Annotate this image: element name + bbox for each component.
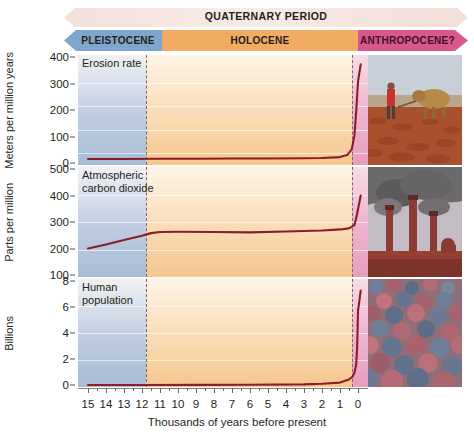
y-tick-mark xyxy=(70,169,75,170)
x-tick-label: 11 xyxy=(154,398,166,410)
x-tick-label: 0 xyxy=(355,398,361,410)
x-tick-mark-minor xyxy=(223,388,224,391)
x-axis-tick-labels: 1514131211109876543210 xyxy=(78,398,368,414)
epoch-band: PLEISTOCENE HOLOCENE ANTHROPOCENE? xyxy=(64,30,468,51)
chart-stack: Meters per million years 4003002001000 E… xyxy=(0,55,474,390)
y-tick-mark xyxy=(70,222,75,223)
x-tick-label: 3 xyxy=(301,398,307,410)
x-tick-mark-minor xyxy=(169,388,170,391)
y-tick-label: 0 xyxy=(63,379,69,391)
plowing-field-photo xyxy=(368,55,462,165)
y-tick-mark xyxy=(70,248,75,249)
x-tick-label: 10 xyxy=(172,398,185,410)
panel-atmospheric-co2-title: Atmospheric carbon dioxide xyxy=(82,169,154,194)
x-tick-mark xyxy=(286,388,287,393)
panel-human-population-axis-title: Billions xyxy=(0,279,17,387)
panel-atmospheric-co2-axis-title: Parts per million xyxy=(0,167,17,277)
epoch-anthropocene: ANTHROPOCENE? xyxy=(358,30,468,51)
y-tick-mark xyxy=(70,110,75,111)
panel-erosion-rate: Meters per million years 4003002001000 E… xyxy=(0,55,474,165)
y-tick-label: 6 xyxy=(63,301,69,313)
y-tick-mark xyxy=(70,307,75,308)
epoch-pleistocene-label: PLEISTOCENE xyxy=(81,35,155,46)
y-tick-label: 500 xyxy=(50,163,69,175)
y-tick-label: 200 xyxy=(50,243,69,255)
y-tick-label: 300 xyxy=(50,216,69,228)
x-tick-label: 14 xyxy=(100,398,113,410)
y-tick-mark xyxy=(70,136,75,137)
x-tick-label: 13 xyxy=(118,398,131,410)
y-tick-mark xyxy=(70,57,75,58)
panel-atmospheric-co2-yticks: 500400300200100 xyxy=(17,167,75,277)
x-tick-mark xyxy=(232,388,233,393)
y-tick-label: 400 xyxy=(50,190,69,202)
y-tick-mark xyxy=(70,385,75,386)
x-tick-mark xyxy=(160,388,161,393)
x-tick-mark xyxy=(358,388,359,393)
y-tick-mark xyxy=(70,359,75,360)
x-tick-label: 4 xyxy=(283,398,289,410)
panel-human-population-title: Human population xyxy=(82,281,133,306)
x-tick-mark-minor xyxy=(259,388,260,391)
x-tick-mark-minor xyxy=(133,388,134,391)
panel-human-population-yticks: 86420 xyxy=(17,279,75,387)
x-axis-title: Thousands of years before present xyxy=(0,416,474,428)
x-tick-label: 5 xyxy=(265,398,271,410)
panel-erosion-rate-axis-title: Meters per million years xyxy=(0,55,17,165)
x-tick-label: 9 xyxy=(193,398,199,410)
x-tick-mark xyxy=(214,388,215,393)
y-tick-mark xyxy=(70,275,75,276)
panel-human-population: Billions 86420 Human population xyxy=(0,279,474,387)
smokestacks-photo xyxy=(368,167,462,277)
x-tick-mark-minor xyxy=(115,388,116,391)
y-tick-label: 400 xyxy=(50,51,69,63)
panel-atmospheric-co2-plot: Atmospheric carbon dioxide xyxy=(78,167,368,277)
y-tick-label: 200 xyxy=(50,104,69,116)
y-tick-mark xyxy=(70,333,75,334)
y-tick-mark xyxy=(70,83,75,84)
x-tick-mark xyxy=(106,388,107,393)
panel-atmospheric-co2: Parts per million 500400300200100 Atmosp… xyxy=(0,167,474,277)
x-tick-mark-minor xyxy=(349,388,350,391)
data-line xyxy=(88,196,361,249)
x-tick-mark xyxy=(88,388,89,393)
x-tick-mark-minor xyxy=(313,388,314,391)
epoch-pleistocene: PLEISTOCENE xyxy=(64,30,162,51)
crowd-photo xyxy=(368,279,462,387)
erosion-rate-curve xyxy=(78,55,368,165)
x-tick-label: 7 xyxy=(229,398,235,410)
x-tick-mark xyxy=(142,388,143,393)
y-tick-mark xyxy=(70,281,75,282)
x-tick-mark xyxy=(322,388,323,393)
x-tick-mark-minor xyxy=(331,388,332,391)
x-tick-mark xyxy=(340,388,341,393)
x-tick-mark-minor xyxy=(277,388,278,391)
x-tick-mark xyxy=(304,388,305,393)
epoch-holocene-label: HOLOCENE xyxy=(230,35,289,46)
x-tick-mark-minor xyxy=(97,388,98,391)
x-tick-mark xyxy=(250,388,251,393)
x-tick-label: 15 xyxy=(82,398,95,410)
panel-human-population-plot: Human population xyxy=(78,279,368,387)
y-tick-label: 8 xyxy=(63,275,69,287)
x-tick-mark xyxy=(124,388,125,393)
geologic-timeline-header: QUATERNARY PERIOD PLEISTOCENE HOLOCENE A… xyxy=(64,8,468,52)
x-tick-label: 6 xyxy=(247,398,253,410)
x-tick-mark xyxy=(178,388,179,393)
y-tick-label: 100 xyxy=(50,131,69,143)
x-tick-label: 8 xyxy=(211,398,217,410)
x-tick-mark xyxy=(268,388,269,393)
panel-erosion-rate-plot: Erosion rate xyxy=(78,55,368,165)
y-tick-mark xyxy=(70,163,75,164)
x-tick-mark-minor xyxy=(187,388,188,391)
data-line xyxy=(88,64,361,159)
y-tick-label: 300 xyxy=(50,78,69,90)
quaternary-period-band: QUATERNARY PERIOD xyxy=(64,8,468,27)
epoch-holocene: HOLOCENE xyxy=(162,30,358,51)
y-tick-mark xyxy=(70,195,75,196)
quaternary-period-label: QUATERNARY PERIOD xyxy=(64,10,468,22)
panel-erosion-rate-title: Erosion rate xyxy=(82,57,141,70)
y-tick-label: 4 xyxy=(63,327,69,339)
x-tick-mark-minor xyxy=(241,388,242,391)
epoch-anthropocene-label: ANTHROPOCENE? xyxy=(360,35,455,46)
